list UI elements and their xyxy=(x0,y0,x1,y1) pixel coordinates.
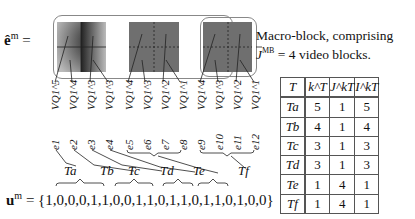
e-label-10: e10 xyxy=(213,134,225,150)
group-tc: Tc xyxy=(128,163,140,179)
e-label-11: e11 xyxy=(231,135,243,150)
e-label-3: e3 xyxy=(85,140,97,150)
header-j: J^kT xyxy=(330,78,355,98)
vq-label-3: VQ1^3 xyxy=(85,80,97,110)
table-row: Te141 xyxy=(281,175,379,194)
group-td: Td xyxy=(160,163,174,179)
header-i: I^kT xyxy=(355,78,379,98)
u-sequence: um = {1,0,0,0,1,1,0,0,1,1,0,1,1,0,1,1,0,… xyxy=(6,190,274,209)
group-ta: Ta xyxy=(64,163,77,179)
e-label-1: e1 xyxy=(49,140,61,150)
e-label-7: e7 xyxy=(159,140,171,150)
vq-label-6: VQ1^3 xyxy=(141,80,153,110)
table-row: Tb414 xyxy=(281,117,379,136)
vq-label-1: VQ1^5 xyxy=(49,80,61,110)
e-label-6: e6 xyxy=(141,140,153,150)
vq-label-7: VQ1^2 xyxy=(159,80,171,110)
header-k: k^T xyxy=(305,78,330,98)
e-label-9: e9 xyxy=(195,140,207,150)
parameter-table: T k^T J^kT I^kT Ta515 Tb414 Tc313 Td313 … xyxy=(280,77,379,214)
group-tf: Tf xyxy=(238,163,249,179)
e-label-5: e5 xyxy=(123,140,135,150)
header-t: T xyxy=(281,78,306,98)
table-row: Td313 xyxy=(281,156,379,175)
table-row: Tf141 xyxy=(281,194,379,213)
vq-label-11: VQ1^2 xyxy=(231,80,243,110)
vq-label-5: VQ1^4 xyxy=(123,80,135,110)
table-row: Tc313 xyxy=(281,136,379,155)
group-tb: Tb xyxy=(100,163,114,179)
group-te: Te xyxy=(193,163,205,179)
vq-label-12: VQ1^1 xyxy=(249,80,261,110)
e-label-12: e12 xyxy=(249,134,261,150)
vq-label-4: VQ1^3 xyxy=(103,80,115,110)
vq-label-10: VQ1^3 xyxy=(213,80,225,110)
e-label-4: e4 xyxy=(103,140,115,150)
vq-label-8: VQ1^1 xyxy=(177,80,189,110)
vq-label-2: VQ1^4 xyxy=(67,80,79,110)
e-label-8: e8 xyxy=(177,140,189,150)
e-label-2: e2 xyxy=(67,140,79,150)
vq-label-9: VQ1^4 xyxy=(195,80,207,110)
table-row: Ta515 xyxy=(281,97,379,117)
